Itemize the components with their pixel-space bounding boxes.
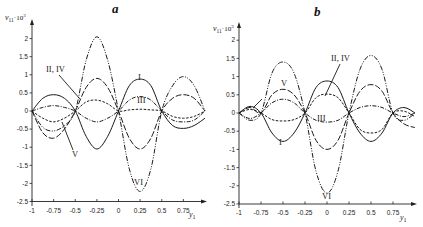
panel-a-y-ticks: 21.510.50-0.5-1-1.5-2-2.5 — [17, 35, 32, 205]
panel-a-label-VI: VI — [134, 177, 143, 187]
panel-a-y-label: v11·103 — [5, 13, 26, 23]
panel-a-label-I: I — [138, 72, 141, 82]
y-tick-label: 2 — [24, 35, 28, 42]
y-tick-label: -0.5 — [224, 127, 236, 134]
curve-ii-iv — [32, 37, 205, 192]
panel-b-label-II-IV: II, IV — [331, 53, 351, 63]
x-tick-label: 0.5 — [366, 209, 375, 216]
y-tick-label: 1 — [24, 71, 28, 78]
x-tick-label: -0.25 — [89, 207, 104, 214]
x-tick-label: -0.5 — [70, 207, 82, 214]
x-tick-label: -1 — [236, 209, 242, 216]
panel-a: a v11·103 21.510.50-0.5-1-1.5-2-2.5 -1-0… — [5, 1, 207, 220]
panel-b-x-label: y1 — [399, 213, 407, 223]
y-tick-label: 0 — [24, 107, 28, 114]
x-tick-label: 0 — [117, 207, 121, 214]
panel-a-y-arrow-icon — [30, 19, 34, 25]
x-tick-label: -0.5 — [277, 209, 289, 216]
y-tick-label: -1.5 — [17, 162, 29, 169]
y-tick-label: -1 — [22, 143, 28, 150]
x-tick-label: -0.75 — [254, 209, 269, 216]
panel-b-leader-V — [253, 99, 262, 108]
x-tick-label: -0.75 — [46, 207, 61, 214]
panel-a-label-III: III — [137, 95, 146, 105]
y-tick-label: -0.5 — [17, 125, 29, 132]
y-tick-label: 0 — [231, 109, 235, 116]
panel-a-title: a — [112, 1, 119, 16]
panel-a-label-II-IV: II, IV — [46, 64, 66, 74]
y-tick-label: -2.5 — [17, 198, 29, 205]
panel-b-label-VI: VI — [322, 191, 331, 201]
y-tick-label: -2.5 — [224, 200, 236, 207]
curve-v — [32, 78, 205, 149]
y-tick-label: -2 — [22, 180, 28, 187]
x-tick-label: 0.25 — [134, 207, 147, 214]
panel-b-leader-II-IV — [325, 64, 340, 96]
y-tick-label: 1 — [231, 73, 235, 80]
panel-b-y-arrow-icon — [237, 22, 241, 28]
panel-a-leader-II-IV — [59, 75, 80, 99]
panel-b-curves — [239, 56, 415, 194]
y-tick-label: -1.5 — [224, 164, 236, 171]
panel-b-label-V: V — [281, 78, 288, 88]
panel-b-title: b — [314, 4, 321, 19]
y-tick-label: -2 — [229, 182, 235, 189]
y-tick-label: -1 — [229, 146, 235, 153]
panel-a-x-arrow-icon — [201, 200, 207, 204]
x-tick-label: -1 — [29, 207, 35, 214]
x-tick-label: 0.5 — [157, 207, 166, 214]
y-tick-label: 0.5 — [226, 91, 235, 98]
curve-ii-iv — [239, 56, 415, 194]
panel-b-label-III: III — [317, 113, 326, 123]
x-tick-label: 0.25 — [343, 209, 356, 216]
curve-i — [32, 79, 205, 149]
panel-b-x-arrow-icon — [411, 202, 417, 206]
panel-b-label-I: I — [279, 137, 282, 147]
x-tick-label: 0.75 — [387, 209, 400, 216]
panel-b-y-label: v11·103 — [213, 24, 234, 34]
y-tick-label: 1.5 — [19, 53, 28, 60]
x-tick-label: -0.25 — [298, 209, 313, 216]
panel-a-label-V: V — [72, 149, 79, 159]
y-tick-label: 2 — [231, 36, 235, 43]
figure: a v11·103 21.510.50-0.5-1-1.5-2-2.5 -1-0… — [0, 0, 423, 227]
x-tick-label: 0 — [325, 209, 329, 216]
panel-b: b v11·103 21.510.50-0.5-1-1.5-2-2.5 -1-0… — [213, 4, 417, 223]
panel-a-x-label: y1 — [188, 210, 196, 220]
panel-b-y-ticks: 21.510.50-0.5-1-1.5-2-2.5 — [224, 36, 239, 207]
y-tick-label: 0.5 — [19, 89, 28, 96]
panel-a-curves — [32, 37, 205, 192]
y-tick-label: 1.5 — [226, 55, 235, 62]
panel-a-leader-V — [62, 122, 73, 150]
